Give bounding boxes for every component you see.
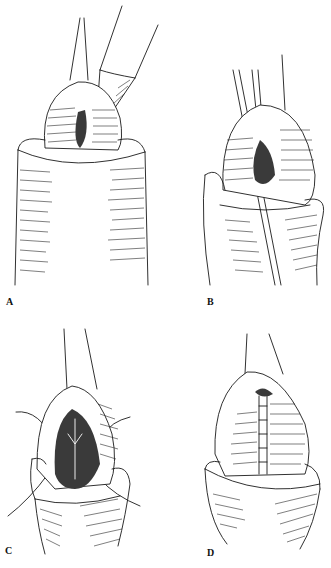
forceps-icon: [70, 18, 88, 80]
panel-label-c: C: [5, 545, 12, 556]
illustration-c: [0, 284, 165, 568]
panel-c: C: [0, 284, 165, 568]
panel-label-d: D: [207, 547, 214, 558]
illustration-b: [165, 0, 331, 290]
illustration-a: [0, 0, 165, 290]
panel-b: B: [165, 0, 331, 290]
panel-d: D: [165, 284, 331, 568]
panel-a: A: [0, 0, 165, 290]
illustration-d: [165, 284, 331, 568]
